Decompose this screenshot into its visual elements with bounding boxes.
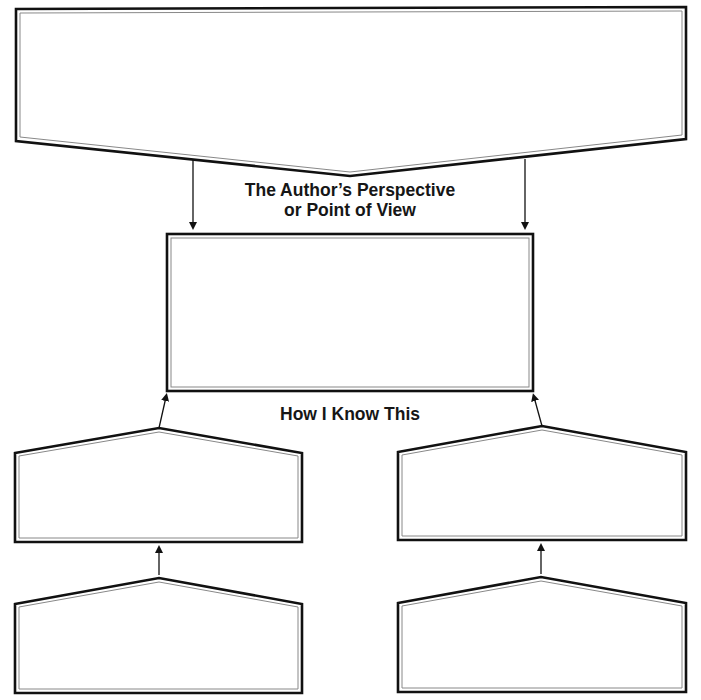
top-banner-box[interactable]	[16, 7, 686, 176]
how-i-know-heading: How I Know This	[200, 404, 500, 424]
graphic-organizer-diagram	[0, 0, 701, 700]
evidence-right-box[interactable]	[398, 426, 686, 540]
perspective-heading: The Author’s Perspective or Point of Vie…	[200, 180, 500, 220]
perspective-heading-line2: or Point of View	[200, 200, 500, 220]
detail-left-box[interactable]	[15, 578, 302, 693]
evidence-left-box[interactable]	[15, 428, 302, 542]
arrow-evidence-left-up	[159, 397, 166, 428]
detail-right-box[interactable]	[398, 577, 686, 692]
perspective-heading-line1: The Author’s Perspective	[200, 180, 500, 200]
arrow-evidence-right-up	[534, 397, 542, 426]
perspective-box[interactable]	[167, 234, 533, 391]
